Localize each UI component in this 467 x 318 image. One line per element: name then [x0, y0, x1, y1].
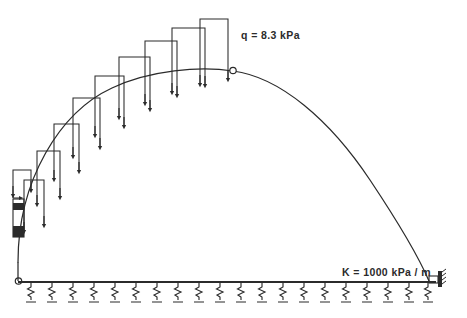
spring-support — [26, 283, 36, 302]
spring-support — [320, 283, 330, 302]
engineering-diagram-figure: q = 8.3 kPa K = 1000 kPa / m — [0, 0, 467, 318]
spring-support — [257, 283, 267, 302]
spring-support — [236, 283, 246, 302]
spring-support — [110, 283, 120, 302]
right-pin-support — [429, 269, 446, 287]
spring-support — [278, 283, 288, 302]
load-block — [200, 19, 228, 85]
spring-support — [68, 283, 78, 302]
load-block — [54, 124, 79, 180]
spring-support — [341, 283, 351, 302]
spring-support — [152, 283, 162, 302]
load-blocks — [13, 19, 228, 232]
load-magnitude-label: q = 8.3 kPa — [241, 29, 300, 41]
foundation-stiffness-label: K = 1000 kPa / m — [342, 266, 431, 278]
spring-support — [89, 283, 99, 302]
spring-supports — [26, 283, 433, 302]
arch-curve — [18, 69, 429, 281]
spring-support — [299, 283, 309, 302]
spring-support — [131, 283, 141, 302]
load-block — [37, 151, 60, 205]
spring-support — [423, 283, 433, 302]
spring-support — [215, 283, 225, 302]
spring-support — [173, 283, 183, 302]
spring-support — [47, 283, 57, 302]
load-block — [73, 98, 100, 157]
spring-support — [194, 283, 204, 302]
spring-support — [383, 283, 393, 302]
crown-hinge-icon — [230, 67, 236, 73]
load-block — [24, 180, 44, 232]
spring-support — [404, 283, 414, 302]
spring-support — [362, 283, 372, 302]
